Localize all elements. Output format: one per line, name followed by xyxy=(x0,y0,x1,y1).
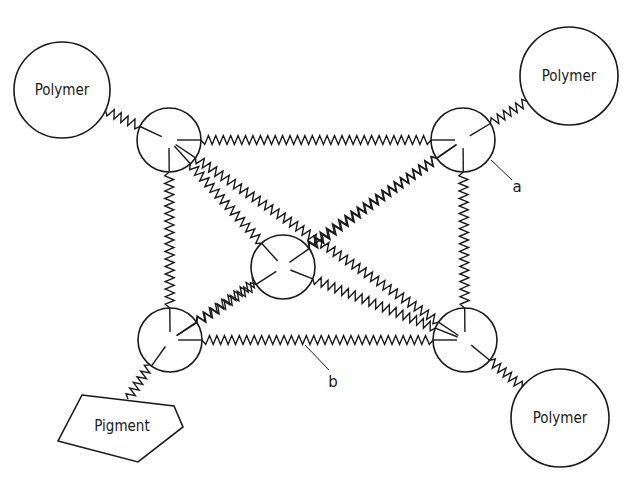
annotation-b: b xyxy=(305,345,338,391)
node-center xyxy=(251,235,315,299)
pigment-label: Pigment xyxy=(94,417,149,435)
spring-center-to-bottom-right xyxy=(313,278,436,331)
annotation-a: a xyxy=(491,160,522,196)
polymer-top-left-label: Polymer xyxy=(35,81,90,99)
spring-polymer-top-left xyxy=(105,110,140,129)
annotation-b-label: b xyxy=(328,373,338,391)
spring-polymer-top-right xyxy=(490,99,527,123)
polymer-top-left: Polymer xyxy=(14,42,110,138)
spring-top-right-to-bottom-right xyxy=(459,172,469,308)
polymer-top-right-label: Polymer xyxy=(542,67,597,85)
spring-polymer-bottom-right xyxy=(490,359,523,387)
spring-pigment xyxy=(126,365,150,399)
polymer-bottom-right: Polymer xyxy=(511,369,609,467)
spring-top-left-to-center xyxy=(190,164,262,244)
polymer-top-right: Polymer xyxy=(520,27,618,125)
annotation-a-label: a xyxy=(512,178,521,196)
annotation-b-leader-line xyxy=(305,345,329,370)
spring-top-left-to-top-right xyxy=(201,136,431,145)
polymer-bottom-right-label: Polymer xyxy=(533,409,588,427)
crosslink-network-diagram: PolymerPolymerPolymer Pigment ab xyxy=(0,0,628,477)
spring-top-left-to-bottom-left xyxy=(165,172,175,308)
annotation-a-leader-line xyxy=(491,160,512,180)
spring-bottom-left-to-bottom-right xyxy=(202,336,433,345)
pigment-particle: Pigment xyxy=(58,395,183,462)
